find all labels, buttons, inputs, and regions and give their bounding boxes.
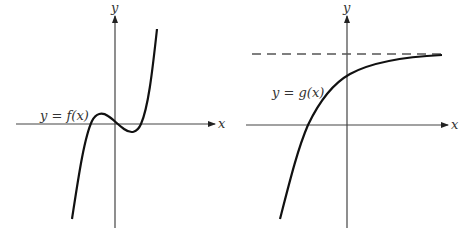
y-axis-label: y	[342, 0, 351, 15]
graph-g: x y y = g(x)	[246, 0, 459, 228]
x-axis-label: x	[218, 116, 226, 131]
curve-label-f: y = f(x)	[39, 108, 89, 123]
function-graphs: x y y = f(x) x y y = g(x)	[0, 0, 470, 238]
curve-g	[280, 55, 442, 219]
x-axis-label: x	[451, 117, 459, 132]
curve-label-g: y = g(x)	[271, 85, 324, 100]
graph-f: x y y = f(x)	[16, 0, 226, 228]
y-axis-label: y	[110, 0, 119, 15]
